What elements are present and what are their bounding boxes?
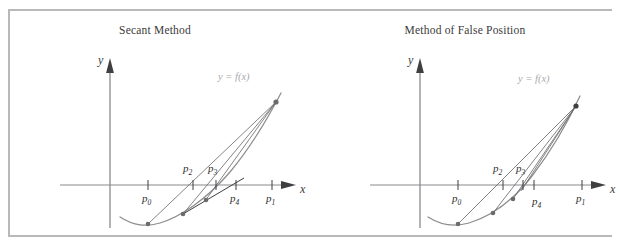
curve-fx-false-position — [428, 96, 580, 225]
svg-text:p1: p1 — [575, 192, 585, 207]
p0-sub-fp: 0 — [458, 198, 462, 207]
svg-text:p2: p2 — [492, 162, 503, 177]
point-label-p0-false-position: p0 — [451, 192, 462, 207]
x-axis-label-false-position: x — [609, 182, 616, 196]
figure-container: Secant Method — [0, 0, 620, 250]
y-axis-label-secant: y — [97, 53, 104, 67]
point-label-p1-secant: p1 — [265, 192, 275, 207]
svg-text:p0: p0 — [141, 192, 152, 207]
point-label-p0-secant: p0 — [141, 192, 152, 207]
false-position-chord-4 — [521, 106, 576, 191]
plot-false-position: y x y = f(x) p0 p2 p3 p4 p1 — [310, 0, 620, 250]
p1-sub-fp: 1 — [582, 198, 586, 207]
point-label-p2-secant: p2 — [182, 162, 193, 177]
x-axis-secant — [60, 181, 296, 189]
p4-sub-fp: 4 — [538, 201, 542, 210]
p0-sub: 0 — [148, 198, 152, 207]
p1-sub: 1 — [272, 198, 276, 207]
x-axis-false-position — [370, 181, 606, 189]
panel-secant-method: Secant Method — [0, 0, 310, 250]
p2-sub-fp: 2 — [499, 168, 503, 177]
svg-text:p0: p0 — [451, 192, 462, 207]
svg-text:p4: p4 — [531, 195, 542, 210]
p3-sub-fp: 3 — [521, 168, 526, 177]
point-label-p3-false-position: p3 — [515, 162, 526, 177]
panel-false-position: Method of False Position — [310, 0, 620, 250]
y-axis-secant — [106, 58, 114, 228]
p2-sub: 2 — [189, 168, 193, 177]
svg-text:p3: p3 — [207, 162, 218, 177]
point-label-p2-false-position: p2 — [492, 162, 503, 177]
svg-text:p1: p1 — [265, 192, 275, 207]
y-axis-false-position — [416, 58, 424, 228]
p3-sub: 3 — [213, 168, 218, 177]
svg-text:p2: p2 — [182, 162, 193, 177]
function-label-secant: y = f(x) — [217, 71, 250, 83]
y-axis-label-false-position: y — [407, 53, 414, 67]
point-label-p4-secant: p4 — [229, 192, 240, 207]
p4-sub: 4 — [236, 198, 240, 207]
plot-secant-method: y x y = f(x) p0 p2 p3 p4 p1 — [0, 0, 310, 250]
svg-text:p3: p3 — [515, 162, 526, 177]
x-axis-label-secant: x — [299, 182, 306, 196]
point-label-p3-secant: p3 — [207, 162, 218, 177]
curve-fx-secant — [120, 93, 281, 225]
point-label-p1-false-position: p1 — [575, 192, 585, 207]
point-label-p4-false-position: p4 — [531, 195, 542, 210]
svg-text:p4: p4 — [229, 192, 240, 207]
function-label-false-position: y = f(x) — [517, 73, 550, 85]
